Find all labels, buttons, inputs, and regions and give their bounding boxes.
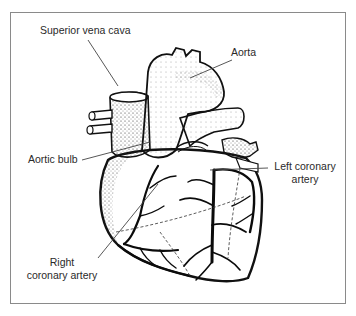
superior-vena-cava: [87, 92, 150, 157]
leader-superior-vena-cava: [88, 40, 118, 86]
label-aorta: Aorta: [231, 46, 256, 59]
label-left-coronary-line2: artery: [272, 173, 338, 186]
label-aortic-bulb: Aortic bulb: [28, 153, 78, 166]
label-right-coronary-artery: Right coronary artery: [22, 256, 102, 282]
label-left-coronary-artery: Left coronary artery: [272, 160, 338, 186]
aorta: [142, 48, 224, 158]
label-right-coronary-line2: coronary artery: [22, 269, 102, 282]
label-right-coronary-line1: Right: [22, 256, 102, 269]
label-left-coronary-line1: Left coronary: [272, 160, 338, 173]
label-superior-vena-cava: Superior vena cava: [40, 24, 130, 37]
